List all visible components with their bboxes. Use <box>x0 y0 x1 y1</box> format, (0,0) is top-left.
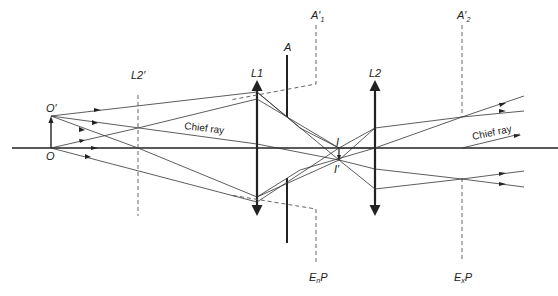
label-entrance-pupil: EnP <box>309 271 328 284</box>
entrance-pupil-dashed <box>230 25 316 262</box>
label-i-prime: I′ <box>334 163 340 175</box>
label-o: O <box>46 150 55 162</box>
optical-diagram: O′ O L2′ L1 A L2 I I′ A′1 A′2 EnP ExP Ch… <box>0 0 558 296</box>
label-a-prime-1: A′1 <box>310 9 324 23</box>
label-exit-pupil: ExP <box>454 271 473 284</box>
label-a: A <box>283 41 291 53</box>
label-l2: L2 <box>369 67 381 79</box>
object-arrow <box>49 116 54 148</box>
label-o-prime: O′ <box>46 102 58 114</box>
label-i: I <box>336 136 339 148</box>
label-l1: L1 <box>251 67 263 79</box>
label-a-prime-2: A′2 <box>456 9 470 23</box>
label-l2-prime: L2′ <box>131 69 146 81</box>
ray-l1-upper-cross <box>257 92 339 148</box>
label-chief-ray-left: Chief ray <box>184 120 225 136</box>
label-chief-ray-right: Chief ray <box>471 123 512 142</box>
